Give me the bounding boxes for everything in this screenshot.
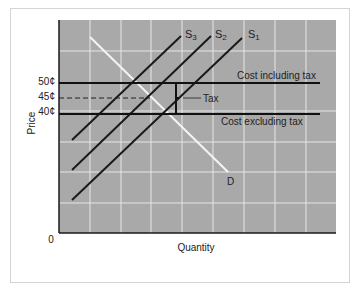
supply-demand-diagram: S3 S2 S1 Cost including tax Cost excludi… (0, 0, 360, 297)
origin-label: 0 (48, 234, 54, 245)
demand-label: D (227, 176, 234, 187)
cost-including-tax-label: Cost including tax (237, 70, 316, 81)
cost-excluding-tax-label: Cost excluding tax (221, 116, 303, 127)
price-tick-50: 50¢ (38, 76, 55, 87)
y-axis-label: Price (26, 111, 37, 134)
tax-label: Tax (203, 93, 219, 104)
price-tick-45: 45¢ (38, 91, 55, 102)
price-tick-40: 40¢ (38, 106, 55, 117)
x-axis-label: Quantity (177, 242, 214, 253)
